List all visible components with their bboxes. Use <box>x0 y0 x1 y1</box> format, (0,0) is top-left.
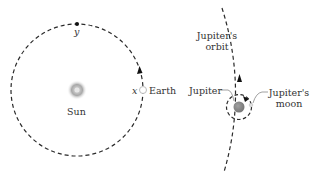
jupiter-orbit-label-line2: orbit <box>192 42 242 52</box>
earth-label: Earth <box>149 86 176 96</box>
orbit-diagram: Sun y x Earth Jupiter's orbit Jupiter Ju… <box>0 0 311 175</box>
earth-icon <box>140 87 147 94</box>
point-x-label: x <box>132 86 137 96</box>
point-y-label: y <box>74 27 79 37</box>
sun-icon <box>67 80 87 100</box>
jupiter-orbit-label: Jupiter's orbit <box>192 31 242 51</box>
jupiter-orbit-arrow-icon <box>237 74 242 82</box>
jupiter-moon-label-line2: moon <box>266 99 311 109</box>
earth-orbit-arrow-icon <box>137 66 143 74</box>
jupiter-icon <box>234 102 245 113</box>
jupiter-leader-line <box>220 90 234 101</box>
sun-label: Sun <box>67 107 86 117</box>
jupiter-orbit-label-line1: Jupiter's <box>192 31 242 41</box>
jupiter-label: Jupiter <box>189 86 222 96</box>
jupiter-moon-label: Jupiter's moon <box>266 88 311 108</box>
jupiter-moon-icon <box>249 103 253 107</box>
jupiter-moon-label-line1: Jupiter's <box>266 88 311 98</box>
